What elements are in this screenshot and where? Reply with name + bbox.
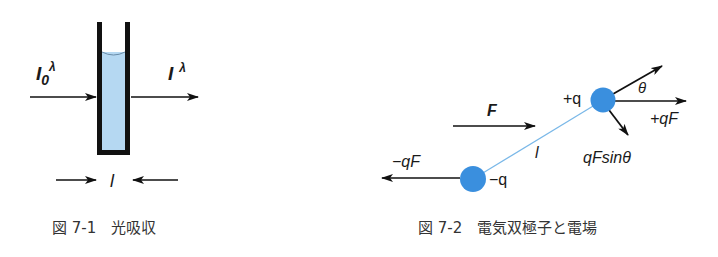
angle-label: θ bbox=[638, 79, 646, 96]
figure-electric-dipole: F −qF +qF θ qFsinθ l +q −q 図 7-2 電気双極子と電… bbox=[382, 66, 686, 237]
diagram-canvas: I0λ Iλ l 図 7-1 光吸収 F −qF +qF θ qFsinθ l … bbox=[0, 0, 718, 257]
figure1-caption: 図 7-1 光吸収 bbox=[52, 219, 156, 237]
pathlength-label: l bbox=[110, 171, 115, 191]
dipole-length-label: l bbox=[535, 144, 539, 161]
incident-intensity-label: I0λ bbox=[36, 60, 56, 88]
liquid bbox=[102, 52, 125, 151]
figure2-caption: 図 7-2 電気双極子と電場 bbox=[418, 219, 597, 237]
negative-force-label: −qF bbox=[392, 153, 421, 170]
transmitted-intensity-label: Iλ bbox=[168, 61, 186, 84]
field-label: F bbox=[487, 102, 498, 119]
negative-charge bbox=[460, 166, 486, 192]
figure-light-absorption: I0λ Iλ l 図 7-1 光吸収 bbox=[30, 22, 198, 237]
torque-component-arrow bbox=[609, 110, 628, 135]
cuvette-left-wall bbox=[97, 22, 102, 155]
cuvette-bottom bbox=[97, 150, 130, 155]
positive-force-label: +qF bbox=[650, 110, 679, 127]
negative-charge-label: −q bbox=[489, 171, 507, 188]
cuvette bbox=[97, 22, 130, 155]
torque-component-label: qFsinθ bbox=[583, 149, 631, 166]
positive-charge bbox=[591, 88, 616, 113]
positive-charge-label: +q bbox=[563, 90, 581, 107]
cuvette-right-wall bbox=[125, 22, 130, 155]
